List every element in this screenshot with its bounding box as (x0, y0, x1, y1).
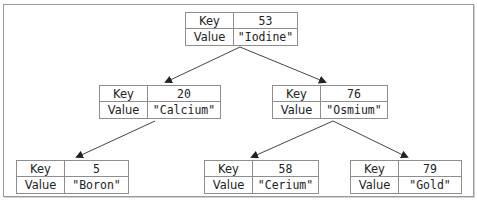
edge-76-79 (333, 121, 407, 157)
key-label: Key (186, 13, 234, 29)
value-label: Value (100, 102, 148, 118)
node-value: "Boron" (65, 177, 128, 193)
key-label: Key (351, 161, 399, 177)
key-label: Key (17, 161, 65, 177)
edge-20-5 (77, 121, 155, 157)
tree-node-58: Key 58 Value "Cerium" (204, 160, 319, 194)
value-label: Value (186, 29, 234, 45)
node-key: 76 (321, 86, 387, 102)
tree-node-20: Key 20 Value "Calcium" (99, 85, 221, 119)
edge-53-20 (166, 47, 240, 82)
key-label: Key (205, 161, 253, 177)
node-key: 53 (234, 13, 297, 29)
tree-node-79: Key 79 Value "Gold" (350, 160, 462, 194)
key-label: Key (273, 86, 321, 102)
value-label: Value (273, 102, 321, 118)
node-value: "Cerium" (253, 177, 318, 193)
edge-76-58 (252, 121, 333, 157)
edge-53-76 (240, 47, 325, 82)
value-label: Value (205, 177, 253, 193)
key-label: Key (100, 86, 148, 102)
value-label: Value (17, 177, 65, 193)
node-value: "Iodine" (234, 29, 297, 45)
tree-node-5: Key 5 Value "Boron" (16, 160, 129, 194)
node-value: "Gold" (399, 177, 461, 193)
tree-node-53: Key 53 Value "Iodine" (185, 12, 298, 46)
node-key: 20 (148, 86, 220, 102)
node-key: 58 (253, 161, 318, 177)
node-key: 5 (65, 161, 128, 177)
tree-node-76: Key 76 Value "Osmium" (272, 85, 388, 119)
node-value: "Calcium" (148, 102, 220, 118)
value-label: Value (351, 177, 399, 193)
node-key: 79 (399, 161, 461, 177)
node-value: "Osmium" (321, 102, 387, 118)
